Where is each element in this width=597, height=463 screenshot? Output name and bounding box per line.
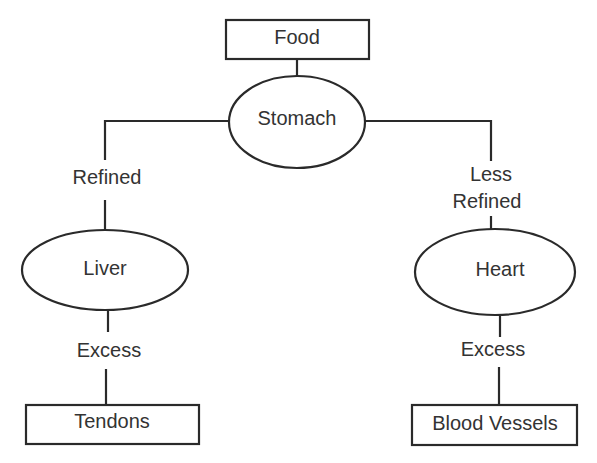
node-tendons-label: Tendons: [74, 410, 150, 432]
node-heart-label: Heart: [476, 258, 525, 280]
node-heart: Heart: [415, 229, 575, 315]
flow-diagram: Food Stomach Refined Less Refined Liver …: [0, 0, 597, 463]
edge-label-less: Less: [470, 163, 512, 185]
node-tendons: Tendons: [26, 405, 199, 444]
node-food: Food: [226, 20, 369, 59]
node-blood-vessels-label: Blood Vessels: [432, 412, 558, 434]
node-food-label: Food: [274, 26, 320, 48]
edge-label-refined: Refined: [73, 166, 142, 188]
node-stomach: Stomach: [229, 76, 365, 168]
connector-stomach-less-refined: [365, 121, 491, 161]
node-stomach-label: Stomach: [258, 107, 337, 129]
node-blood-vessels: Blood Vessels: [412, 405, 577, 445]
connector-stomach-refined: [105, 121, 229, 160]
edge-label-refined-right: Refined: [453, 190, 522, 212]
edge-label-excess-right: Excess: [461, 338, 525, 360]
edge-label-excess-left: Excess: [77, 339, 141, 361]
node-liver-label: Liver: [83, 257, 127, 279]
node-liver: Liver: [22, 230, 188, 310]
